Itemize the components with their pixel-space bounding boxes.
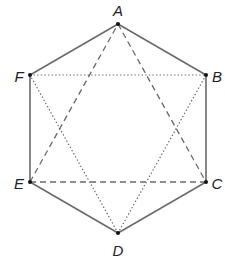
segment-cd-solid <box>118 182 206 233</box>
segment-de-solid <box>30 182 118 233</box>
hexagon-diagram <box>0 0 225 266</box>
vertex-point-f <box>28 73 32 77</box>
vertex-points-group <box>28 22 208 235</box>
vertex-label-d: D <box>113 243 124 258</box>
vertex-label-f: F <box>14 69 23 84</box>
vertex-point-c <box>204 180 208 184</box>
segment-ea-dashed <box>30 24 118 182</box>
segment-ac-dashed <box>118 24 206 182</box>
vertex-label-e: E <box>14 176 24 191</box>
vertex-point-e <box>28 180 32 184</box>
segment-fa-solid <box>30 24 118 75</box>
segment-ab-solid <box>118 24 206 75</box>
vertex-point-a <box>116 22 120 26</box>
vertex-point-d <box>116 231 120 235</box>
vertex-label-c: C <box>212 176 223 191</box>
vertex-point-b <box>204 73 208 77</box>
vertex-label-b: B <box>212 69 222 84</box>
segments-group <box>30 24 206 233</box>
vertex-label-a: A <box>113 3 123 18</box>
segment-df-dotted <box>30 75 118 233</box>
segment-bd-dotted <box>118 75 206 233</box>
